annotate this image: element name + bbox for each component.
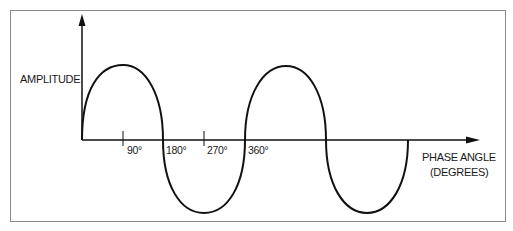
y-axis-label: AMPLITUDE	[20, 73, 80, 85]
x-axis-arrow-icon	[466, 137, 480, 144]
tick-label-270: 270°	[207, 144, 228, 156]
sine-wave-curve	[82, 65, 408, 213]
x-axis-label-line1: PHASE ANGLE	[422, 151, 496, 163]
x-axis-label-line2: (DEGREES)	[430, 166, 488, 178]
y-axis-arrow-icon	[79, 14, 86, 26]
tick-label-360: 360°	[248, 144, 269, 156]
sine-wave-diagram	[0, 0, 513, 231]
tick-label-180: 180°	[166, 144, 187, 156]
tick-label-90: 90°	[127, 144, 142, 156]
